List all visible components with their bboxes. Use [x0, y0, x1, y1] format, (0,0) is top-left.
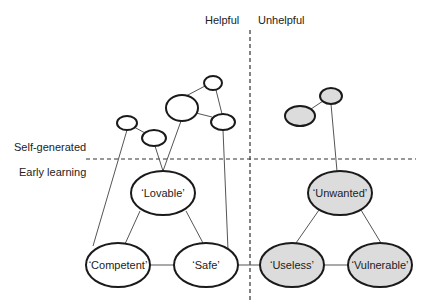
node-unwanted: ‘Unwanted’: [308, 171, 372, 215]
unhelpful-label: Unhelpful: [258, 14, 304, 26]
svg-text:‘Competent’: ‘Competent’: [89, 259, 148, 271]
helpful-thought-node: [142, 130, 166, 146]
node-safe: ‘Safe’: [174, 243, 238, 287]
unhelpful-thought-node: [285, 106, 315, 126]
helpful-thought-node: [204, 76, 222, 90]
node-useless: ‘Useless’: [260, 243, 324, 287]
helpful-thought-node: [166, 95, 198, 121]
svg-text:‘Safe’: ‘Safe’: [192, 259, 220, 271]
svg-text:‘Vulnerable’: ‘Vulnerable’: [351, 259, 408, 271]
svg-text:‘Unwanted’: ‘Unwanted’: [313, 187, 367, 199]
helpful-thought-node: [117, 116, 137, 130]
svg-text:‘Lovable’: ‘Lovable’: [141, 187, 184, 199]
node-competent: ‘Competent’: [86, 243, 150, 287]
early-learning-label: Early learning: [19, 166, 86, 178]
svg-text:‘Useless’: ‘Useless’: [270, 259, 314, 271]
helpful-label: Helpful: [205, 14, 239, 26]
node-lovable: ‘Lovable’: [131, 171, 195, 215]
node-vulnerable: ‘Vulnerable’: [348, 243, 412, 287]
helpful-thought-node: [211, 114, 235, 130]
belief-network-diagram: Helpful Unhelpful Self-generated Early l…: [0, 0, 430, 301]
self-generated-label: Self-generated: [14, 141, 86, 153]
unhelpful-thought-node: [320, 88, 342, 104]
